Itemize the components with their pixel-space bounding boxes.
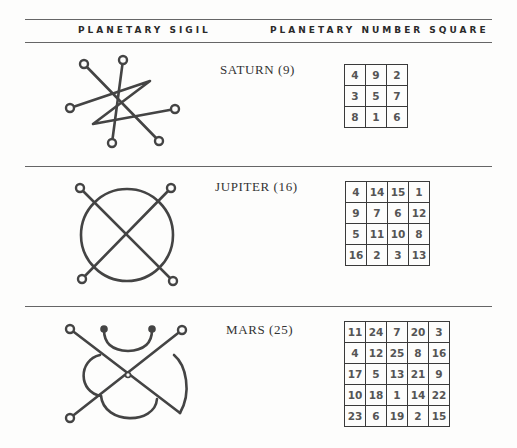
square-row: 11247203 bbox=[345, 322, 450, 343]
square-cell: 25 bbox=[387, 343, 408, 364]
square-row: 17513219 bbox=[345, 364, 450, 385]
square-cell: 11 bbox=[345, 322, 366, 343]
square-cell: 13 bbox=[387, 364, 408, 385]
square-cell: 8 bbox=[408, 343, 429, 364]
square-cell: 16 bbox=[429, 343, 450, 364]
square-cell: 4 bbox=[345, 343, 366, 364]
square-cell: 21 bbox=[408, 364, 429, 385]
square-cell: 6 bbox=[366, 406, 387, 427]
square-cell: 23 bbox=[345, 406, 366, 427]
square-cell: 1 bbox=[387, 385, 408, 406]
square-row: 41225816 bbox=[345, 343, 450, 364]
square-cell: 17 bbox=[345, 364, 366, 385]
square-cell: 5 bbox=[366, 364, 387, 385]
square-cell: 20 bbox=[408, 322, 429, 343]
square-cell: 3 bbox=[429, 322, 450, 343]
square-cell: 24 bbox=[366, 322, 387, 343]
square-cell: 14 bbox=[408, 385, 429, 406]
square-cell: 10 bbox=[345, 385, 366, 406]
square-row: 101811422 bbox=[345, 385, 450, 406]
square-cell: 12 bbox=[366, 343, 387, 364]
number-square-mars: 1124720341225816175132191018114222361921… bbox=[344, 321, 450, 427]
square-cell: 18 bbox=[366, 385, 387, 406]
square-cell: 7 bbox=[387, 322, 408, 343]
square-cell: 15 bbox=[429, 406, 450, 427]
square-row: 23619215 bbox=[345, 406, 450, 427]
square-cell: 19 bbox=[387, 406, 408, 427]
square-cell: 22 bbox=[429, 385, 450, 406]
square-cell: 9 bbox=[429, 364, 450, 385]
square-cell: 2 bbox=[408, 406, 429, 427]
planet-label-mars: MARS (25) bbox=[226, 322, 293, 338]
